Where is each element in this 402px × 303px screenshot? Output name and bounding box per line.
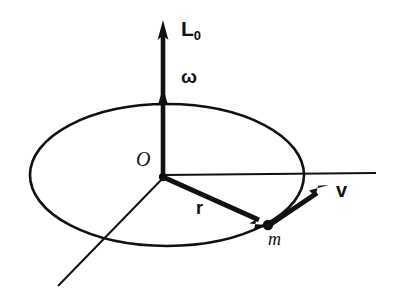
diagonal-axis-line: [58, 178, 163, 286]
angular-momentum-label-subscript: 0: [194, 28, 201, 43]
origin-point-marker: [159, 173, 167, 181]
velocity-vector-shaft: [268, 193, 317, 226]
origin-label: O: [136, 149, 150, 169]
physics-diagram-figure: L0 ω O r m v: [0, 0, 402, 303]
diagram-canvas: [0, 0, 402, 303]
velocity-vector-label: v: [336, 180, 347, 200]
angular-velocity-label: ω: [181, 67, 197, 86]
horizontal-axis-line: [163, 173, 376, 175]
angular-momentum-label-base: L: [181, 17, 194, 40]
radius-vector-shaft: [163, 177, 259, 220]
angular-momentum-label: L0: [181, 18, 201, 39]
mass-label: m: [268, 230, 281, 248]
radius-vector-label: r: [196, 199, 203, 217]
